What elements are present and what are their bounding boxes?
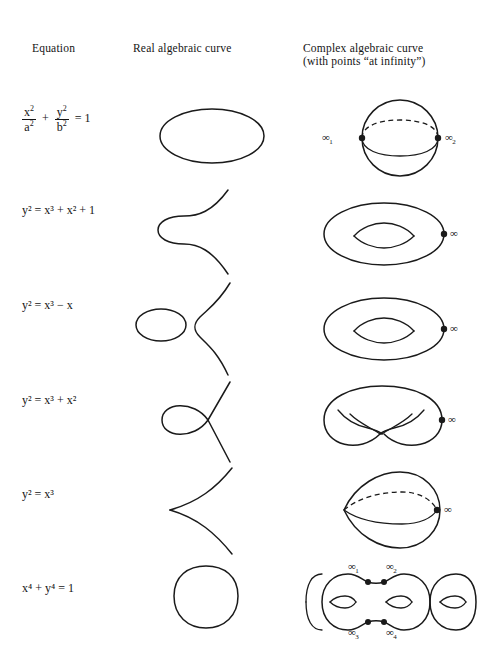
complex-curve-pinched-torus: ∞ <box>320 376 470 476</box>
complex-curve-sphere: ∞1 ∞2 <box>340 92 460 184</box>
fraction-denominator: a2 <box>22 120 36 133</box>
figure-page: Equation Real algebraic curve Complex al… <box>0 0 486 649</box>
fraction-numerator: y2 <box>55 106 69 120</box>
infinity-label-4: ∞4 <box>386 626 397 638</box>
infinity-label: ∞ <box>450 322 457 334</box>
real-curve-nodal-cubic <box>150 376 290 476</box>
equation-cell: x⁴ + y⁴ = 1 <box>22 582 74 594</box>
infinity-label: ∞ <box>450 227 457 239</box>
fraction-x-over-a: x2 a2 <box>22 106 36 133</box>
equation-cell: y² = x³ + x² <box>22 394 76 406</box>
infinity-label-3: ∞3 <box>348 626 359 638</box>
table-row: y² = x³ − x ∞ <box>0 285 486 380</box>
complex-header-line-2: (with points “at infinity”) <box>303 55 426 68</box>
complex-curve-torus: ∞ <box>320 188 470 284</box>
fraction-denominator: b2 <box>55 120 69 133</box>
equation-rhs: 1 <box>85 111 91 125</box>
table-row: y² = x³ ∞ <box>0 466 486 561</box>
equation-cell: y² = x³ − x <box>22 299 73 311</box>
table-row: y² = x³ + x² ∞ <box>0 380 486 475</box>
operator-equals: = <box>72 111 85 125</box>
column-header-complex-curve: Complex algebraic curve (with points “at… <box>303 42 426 68</box>
complex-curve-torus: ∞ <box>320 283 470 379</box>
complex-header-line-1: Complex algebraic curve <box>303 42 423 54</box>
infinity-label-1: ∞1 <box>348 560 359 572</box>
complex-curve-genus-three: ∞1 ∞2 ∞3 ∞4 <box>300 558 480 644</box>
fraction-numerator: x2 <box>22 106 36 120</box>
equation-cell: y² = x³ + x² + 1 <box>22 204 95 216</box>
infinity-label-1: ∞1 <box>322 131 333 143</box>
infinity-label: ∞ <box>444 503 451 515</box>
real-curve-oval-and-branch <box>130 281 280 381</box>
infinity-label: ∞ <box>448 413 455 425</box>
table-row: y² = x³ + x² + 1 ∞ <box>0 190 486 285</box>
real-curve-cuspidal-cubic <box>160 464 290 564</box>
real-curve-smooth-cubic-one-branch <box>150 186 280 286</box>
operator-plus: + <box>39 111 52 125</box>
complex-curve-cuspidal-sphere: ∞ <box>336 462 466 562</box>
infinity-label-2: ∞2 <box>386 560 397 572</box>
column-header-equation: Equation <box>32 42 75 55</box>
real-curve-squircle <box>166 562 286 649</box>
infinity-label-2: ∞2 <box>445 131 456 143</box>
equation-cell: x2 a2 + y2 b2 =1 <box>22 106 91 133</box>
table-row: x⁴ + y⁴ = 1 <box>0 556 486 649</box>
real-curve-ellipse <box>150 100 280 180</box>
fraction-y-over-b: y2 b2 <box>55 106 69 133</box>
column-header-real-curve: Real algebraic curve <box>133 42 232 55</box>
table-row: x2 a2 + y2 b2 =1 ∞1 <box>0 96 486 191</box>
equation-cell: y² = x³ <box>22 488 54 500</box>
